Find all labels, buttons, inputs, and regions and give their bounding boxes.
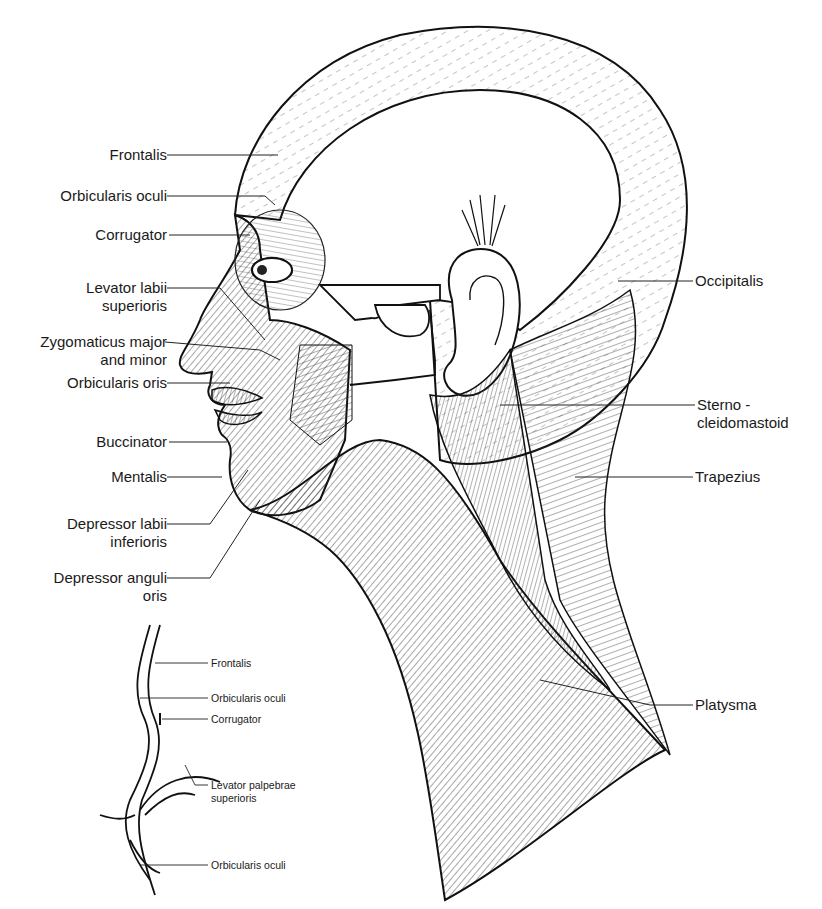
label-sternocleidomastoid: Sterno - cleidomastoid	[697, 396, 789, 432]
label-depressor-anguli-oris: Depressor anguli oris	[54, 569, 167, 605]
inset-eyelid-section	[100, 625, 220, 895]
inset-label-orbicularis-oculi-upper: Orbicularis oculi	[211, 692, 286, 705]
label-buccinator: Buccinator	[96, 433, 167, 451]
label-depressor-labii-inferioris: Depressor labii inferioris	[67, 515, 167, 551]
label-corrugator: Corrugator	[95, 226, 167, 244]
label-zygomaticus: Zygomaticus major and minor	[40, 333, 167, 369]
label-levator-labii-superioris: Levator labii superioris	[86, 279, 167, 315]
inset-leader-lines	[140, 663, 208, 865]
inset-label-levator-palpebrae: Levator palpebrae superioris	[211, 779, 296, 805]
label-mentalis: Mentalis	[111, 468, 167, 486]
label-frontalis: Frontalis	[109, 146, 167, 164]
label-occipitalis: Occipitalis	[695, 272, 763, 290]
label-platysma: Platysma	[695, 696, 757, 714]
label-trapezius: Trapezius	[695, 468, 760, 486]
inset-label-corrugator: Corrugator	[211, 713, 261, 726]
head-neck-illustration	[0, 0, 822, 909]
label-orbicularis-oris: Orbicularis oris	[67, 374, 167, 392]
anatomy-figure: Frontalis Orbicularis oculi Corrugator L…	[0, 0, 822, 909]
label-orbicularis-oculi: Orbicularis oculi	[60, 187, 167, 205]
inset-label-frontalis: Frontalis	[211, 657, 251, 670]
inset-label-orbicularis-oculi-lower: Orbicularis oculi	[211, 859, 286, 872]
